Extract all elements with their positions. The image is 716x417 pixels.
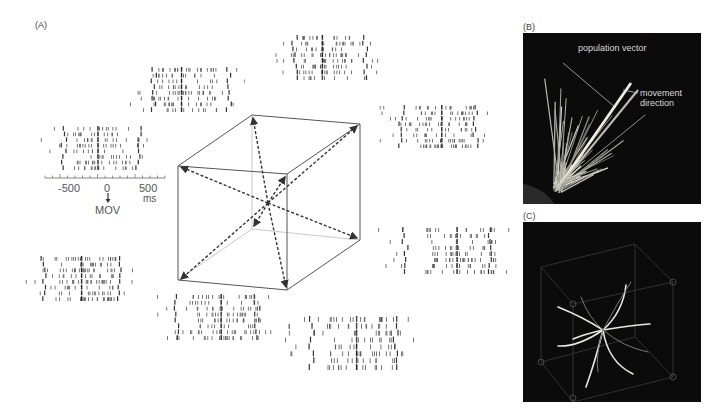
panel-c-label: (C) — [523, 211, 536, 221]
trajectory-plot — [523, 222, 701, 402]
population-vector-label: population vector — [578, 43, 647, 53]
panel-b-label: (B) — [523, 22, 535, 32]
population-vector-plot: population vector movement direction — [523, 33, 701, 204]
movement-direction-label: movement direction — [640, 88, 695, 108]
